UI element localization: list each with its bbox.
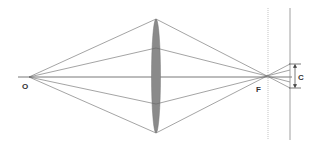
incident-rays: [29, 19, 156, 133]
lens-focus-diagram: O F C: [0, 0, 316, 149]
focal-point-label: F: [256, 85, 261, 94]
object-point-label: O: [22, 82, 28, 91]
convex-lens: [152, 19, 161, 133]
refracted-rays: [156, 19, 290, 133]
circle-of-confusion-label: C: [298, 73, 304, 82]
